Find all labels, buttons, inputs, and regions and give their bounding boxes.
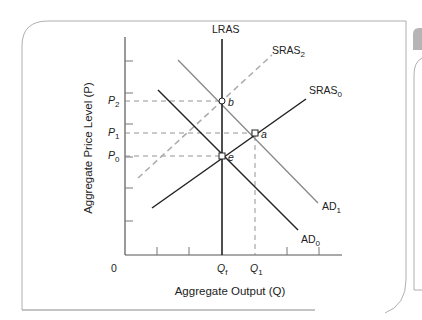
point-b-marker [219, 98, 225, 104]
lras-label: LRAS [212, 23, 239, 35]
point-a-label: a [261, 128, 267, 140]
y-tick-p2: P2 [108, 94, 120, 109]
ad0-label: AD0 [301, 233, 321, 248]
point-a-marker [252, 130, 258, 136]
x-axis-title: Aggregate Output (Q) [175, 285, 286, 297]
sras2-curve [138, 55, 272, 178]
sras0-label: SRAS0 [309, 84, 343, 99]
point-b-label: b [228, 96, 234, 108]
chart-figure: b a e LRAS SRAS2 SRAS0 AD1 AD0 P2 P1 P0 … [0, 0, 422, 320]
guide-lines [125, 101, 255, 255]
ad1-label: AD1 [322, 200, 342, 215]
y-tick-p1: P1 [108, 126, 120, 141]
origin-label: 0 [111, 262, 117, 274]
y-tick-p0: P0 [108, 149, 120, 164]
sras2-label: SRAS2 [272, 44, 306, 59]
y-axis-title: Aggregate Price Level (P) [82, 82, 94, 214]
point-e-marker [219, 153, 225, 159]
axes [125, 37, 342, 255]
x-tick-qf: Qf [217, 262, 228, 277]
side-tab [413, 28, 422, 50]
side-panel-border [414, 58, 422, 290]
x-tick-q1: Q1 [250, 262, 263, 277]
figure-frame [22, 21, 406, 313]
point-e-label: e [228, 151, 234, 163]
